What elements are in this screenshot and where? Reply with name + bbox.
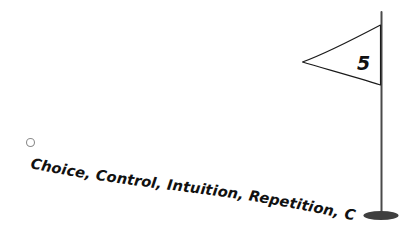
flag-number-label: 5 — [357, 52, 370, 74]
golf-ball-icon — [27, 139, 35, 147]
golf-scene-svg: 5 Choice, Control, Intuition, Repetition… — [0, 0, 412, 240]
illustration-canvas: 5 Choice, Control, Intuition, Repetition… — [0, 0, 412, 240]
flag-pole-base — [364, 211, 399, 220]
caption-textpath: Choice, Control, Intuition, Repetition, … — [0, 0, 357, 223]
caption-text: Choice, Control, Intuition, Repetition, … — [0, 0, 357, 223]
